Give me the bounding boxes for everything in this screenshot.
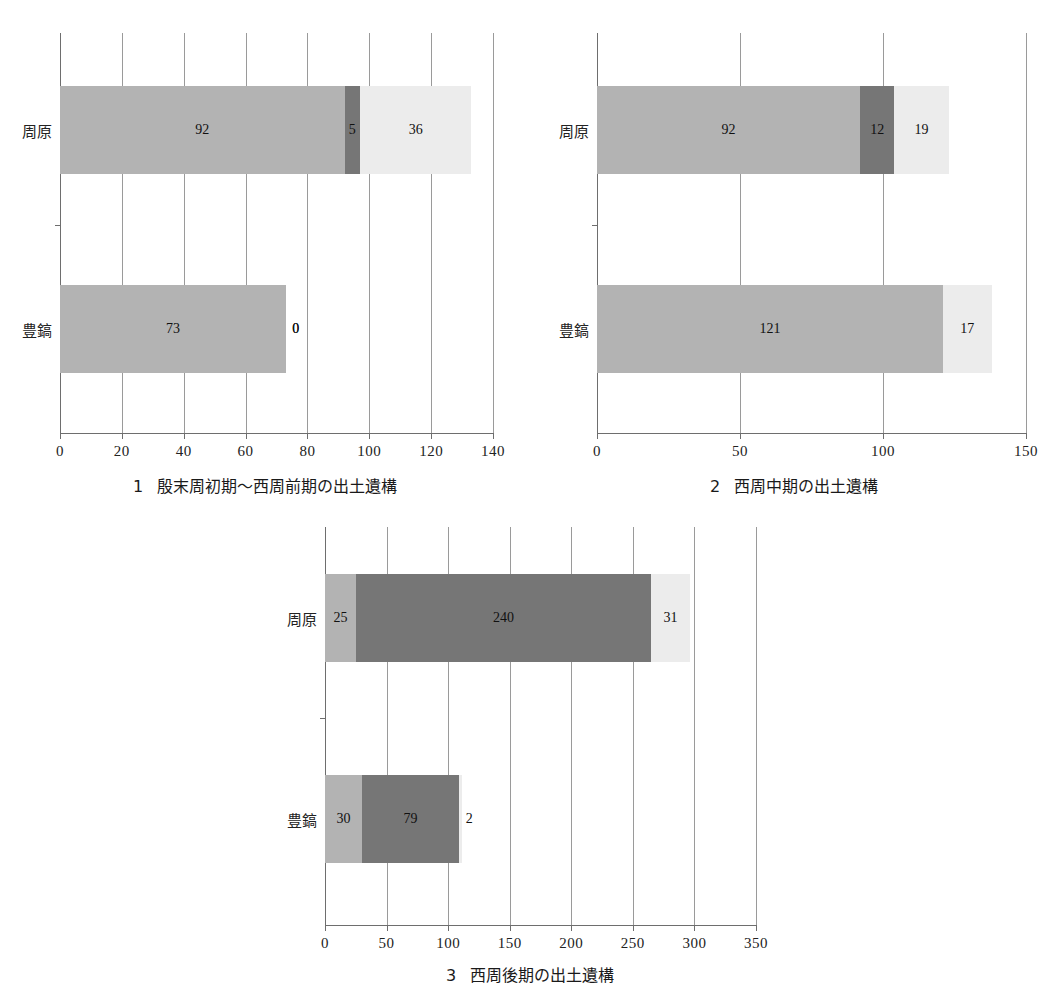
bar-segment-series-3 [459, 775, 461, 863]
x-axis-line [325, 925, 756, 926]
x-tick-label-100: 100 [436, 935, 460, 952]
x-tick-label-20: 20 [114, 443, 130, 460]
bar-value-label: 25 [333, 610, 347, 626]
caption-text: 西周中期の出土遺構 [734, 477, 878, 496]
x-tick-label-100: 100 [357, 443, 381, 460]
bar-value-label: 19 [915, 122, 929, 138]
x-tick-label-0: 0 [593, 443, 601, 460]
x-tick-label-0: 0 [56, 443, 64, 460]
figure-3: 050100150200250300350周原2524031豊鎬307923西周… [250, 500, 810, 996]
figure-caption-1: 1殷末周初期〜西周前期の出土遺構 [0, 473, 530, 497]
category-label-豊鎬: 豊鎬 [275, 809, 317, 830]
bar-value-label: 12 [870, 122, 884, 138]
category-label-周原: 周原 [549, 120, 589, 141]
caption-number: 1 [133, 477, 143, 496]
x-tick-label-150: 150 [498, 935, 522, 952]
plot-area-1: 020406080100120140周原92536豊鎬7300 [0, 0, 530, 500]
bar-value-label: 73 [166, 321, 180, 337]
x-tick-label-100: 100 [871, 443, 895, 460]
bar-value-label: 5 [349, 122, 356, 138]
bar-value-label: 30 [336, 811, 350, 827]
bar-value-label: 17 [960, 321, 974, 337]
x-tick-label-50: 50 [379, 935, 395, 952]
x-axis-line [597, 433, 1026, 434]
caption-number: 2 [710, 477, 720, 496]
bar-value-label: 36 [409, 122, 423, 138]
x-tick-label-120: 120 [419, 443, 443, 460]
x-tick-label-40: 40 [176, 443, 192, 460]
x-tick-label-50: 50 [732, 443, 748, 460]
bar-value-label: 2 [466, 811, 473, 827]
x-tick-label-150: 150 [1014, 443, 1038, 460]
bar-value-label: 79 [404, 811, 418, 827]
plot-area-3: 050100150200250300350周原2524031豊鎬30792 [250, 500, 810, 996]
bar-value-label: 31 [663, 610, 677, 626]
plot-area-2: 050100150周原921219豊鎬121017 [529, 0, 1059, 500]
x-tick-label-250: 250 [621, 935, 645, 952]
bar-value-label: 240 [493, 610, 514, 626]
bar-value-label: 92 [195, 122, 209, 138]
x-axis-line [60, 433, 493, 434]
gridline-x-140 [493, 33, 494, 433]
figure-1: 020406080100120140周原92536豊鎬73001殷末周初期〜西周… [0, 0, 530, 500]
x-tick-label-200: 200 [559, 935, 583, 952]
category-label-豊鎬: 豊鎬 [14, 319, 52, 340]
y-axis-category-tick [55, 225, 61, 226]
caption-text: 殷末周初期〜西周前期の出土遺構 [157, 477, 397, 496]
bar-value-label: 121 [760, 321, 781, 337]
category-label-豊鎬: 豊鎬 [549, 319, 589, 340]
caption-text: 西周後期の出土遺構 [470, 966, 614, 985]
x-tick-label-60: 60 [238, 443, 254, 460]
y-axis-category-tick [320, 718, 326, 719]
gridline-x-300 [694, 527, 695, 925]
figure-caption-3: 3西周後期の出土遺構 [250, 962, 810, 986]
category-label-周原: 周原 [14, 120, 52, 141]
tick-mark-140 [493, 433, 494, 439]
y-axis-category-tick [592, 225, 598, 226]
figure-2: 050100150周原921219豊鎬1210172西周中期の出土遺構 [529, 0, 1059, 500]
bar-value-label: 0 [292, 321, 299, 337]
tick-mark-350 [756, 925, 757, 931]
gridline-x-350 [756, 527, 757, 925]
tick-mark-150 [1026, 433, 1027, 439]
caption-number: 3 [446, 966, 456, 985]
bar-value-label: 92 [722, 122, 736, 138]
category-label-周原: 周原 [275, 608, 317, 629]
x-tick-label-80: 80 [299, 443, 315, 460]
x-tick-label-350: 350 [744, 935, 768, 952]
x-tick-label-140: 140 [481, 443, 505, 460]
figure-caption-2: 2西周中期の出土遺構 [529, 473, 1059, 497]
gridline-x-150 [1026, 33, 1027, 433]
x-tick-label-300: 300 [682, 935, 706, 952]
x-tick-label-0: 0 [321, 935, 329, 952]
